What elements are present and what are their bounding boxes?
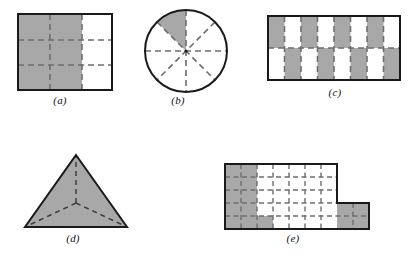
figure-a-unshaded-region bbox=[82, 14, 112, 90]
figure-c-label: (c) bbox=[315, 86, 355, 98]
figure-e bbox=[224, 163, 374, 231]
figure-a bbox=[17, 13, 113, 91]
figure-b-label: (b) bbox=[158, 94, 198, 106]
figure-c bbox=[267, 15, 401, 81]
figure-d bbox=[22, 152, 130, 230]
figure-a-svg bbox=[17, 13, 113, 91]
figure-b bbox=[143, 8, 229, 94]
figure-a-label: (a) bbox=[40, 94, 80, 106]
figure-b-svg bbox=[143, 8, 229, 94]
figure-d-svg bbox=[22, 152, 130, 230]
figure-c-svg bbox=[267, 15, 401, 81]
figure-b-center-dot bbox=[184, 49, 187, 52]
figure-d-label: (d) bbox=[53, 232, 93, 244]
figure-e-label: (e) bbox=[273, 232, 313, 244]
figure-e-svg bbox=[224, 163, 374, 231]
